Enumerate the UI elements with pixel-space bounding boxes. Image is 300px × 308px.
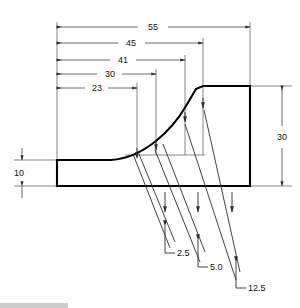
engineering-drawing-svg: 55 45 41 30 23: [0, 0, 300, 308]
part-profile-path: [57, 86, 250, 186]
horizontal-dimension-group: 55 45 41 30 23: [57, 22, 250, 93]
bottom-edge-strip: [0, 303, 68, 308]
dimension-10: 10: [14, 148, 24, 198]
leader-line-d: [163, 144, 205, 252]
leader-line-e: [185, 124, 236, 280]
leader-line-a: [133, 154, 170, 248]
technical-drawing-canvas: 55 45 41 30 23: [0, 0, 300, 308]
callout-5-0: 5.0: [198, 240, 223, 272]
dim-10-label: 10: [14, 168, 24, 178]
dim-55-label: 55: [148, 22, 158, 32]
dimension-45: 45: [57, 38, 203, 48]
dim-45-label: 45: [126, 38, 136, 48]
dimension-23: 23: [57, 83, 137, 93]
part-outline: [57, 86, 250, 186]
callout-12-5-elbow: [236, 280, 246, 288]
dimension-55: 55: [57, 22, 250, 32]
dim-23-label: 23: [92, 83, 102, 93]
dim-30v-label: 30: [277, 132, 287, 142]
leader-line-b: [139, 154, 175, 242]
callout-group: 2.5 5.0 12.5: [165, 226, 266, 293]
dim-30h-label: 30: [105, 69, 115, 79]
dimension-30-vertical: 30: [277, 86, 287, 186]
dim-41-label: 41: [118, 55, 128, 65]
callout-2-5-label: 2.5: [177, 248, 190, 258]
callout-12-5: 12.5: [236, 262, 266, 293]
callout-5-0-label: 5.0: [210, 262, 223, 272]
callout-2-5: 2.5: [165, 226, 190, 258]
leader-line-c: [155, 150, 200, 262]
dimension-30-horizontal: 30: [57, 69, 156, 79]
dimension-41: 41: [57, 55, 185, 65]
callout-12-5-label: 12.5: [248, 283, 266, 293]
leader-line-f: [204, 110, 240, 272]
